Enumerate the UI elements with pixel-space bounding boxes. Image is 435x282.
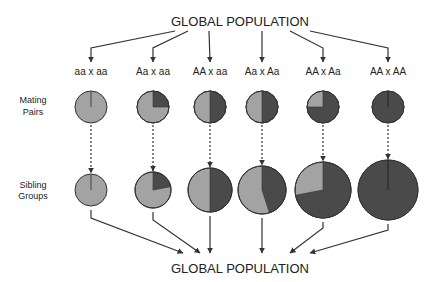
genotype-label: AA x aa [193, 66, 228, 77]
genotype-label: Aa x Aa [245, 66, 280, 77]
arrow [153, 31, 188, 62]
genotype-label: Aa x aa [136, 66, 170, 77]
sibling-group-pie [75, 174, 107, 206]
mating-pair-pie [194, 91, 226, 123]
row-label-line: Mating [19, 95, 46, 105]
sibling-group-pie [358, 160, 418, 220]
mating-pair-pie [137, 91, 169, 123]
arrow [91, 31, 175, 62]
arrow [209, 31, 210, 62]
arrow [153, 212, 200, 253]
mating-pair-pie [246, 91, 278, 123]
genotype-label: AA x AA [370, 66, 406, 77]
sibling-group-pie [135, 172, 171, 208]
arrow [290, 222, 323, 253]
mating-pair-pies [75, 91, 404, 123]
mating-pair-pie [307, 91, 339, 123]
genotype-labels: aa x aaAa x aaAA x aaAa x AaAA x AaAA x … [75, 66, 407, 77]
bottom-title: GLOBAL POPULATION [171, 261, 309, 276]
row-label-line: Pairs [23, 107, 44, 117]
row-label-line: Groups [18, 191, 48, 201]
sibling-group-pies [75, 160, 418, 220]
dotted-arrows [91, 125, 388, 173]
row-label-line: Sibling [19, 180, 46, 190]
genotype-label: aa x aa [75, 66, 108, 77]
row-label-sibling-groups: Sibling Groups [18, 180, 48, 201]
arrow [310, 31, 388, 62]
mating-pair-pie [75, 91, 107, 123]
sibling-group-pie [295, 162, 351, 218]
population-diagram: GLOBAL POPULATION aa x aaAa x aaAA x aaA… [0, 0, 435, 282]
bottom-arrows [91, 210, 388, 253]
top-arrows [91, 31, 388, 62]
sibling-group-pie [238, 166, 286, 214]
mating-pair-pie [372, 91, 404, 123]
arrow [290, 31, 323, 62]
sibling-group-pie [188, 168, 232, 212]
top-title: GLOBAL POPULATION [171, 14, 309, 29]
row-label-mating-pairs: Mating Pairs [19, 95, 46, 117]
genotype-label: AA x Aa [305, 66, 340, 77]
